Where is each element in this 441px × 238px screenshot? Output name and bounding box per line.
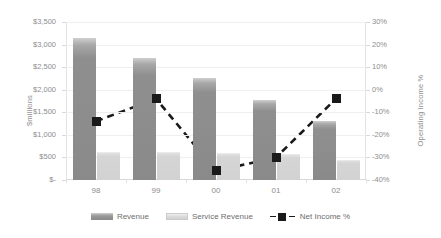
x-axis-label: 99 (126, 186, 186, 195)
y-axis-left-tick (62, 22, 66, 23)
y-axis-right-tick (366, 90, 370, 91)
net-income-marker (92, 117, 101, 126)
y-axis-right-label: 10% (372, 62, 412, 71)
combo-chart: $millions Operating Income % Revenue Ser… (0, 0, 441, 238)
y-axis-right-tick (366, 112, 370, 113)
bar-service-revenue (337, 160, 360, 180)
net-income-line-swatch (270, 212, 296, 221)
y-axis-right-label: -30% (372, 152, 412, 161)
plot-area (66, 22, 366, 180)
y-axis-left-tick (62, 112, 66, 113)
gridline (66, 45, 366, 46)
legend-item-service-revenue: Service Revenue (166, 212, 253, 221)
gridline (66, 90, 366, 91)
legend-label-revenue: Revenue (117, 212, 149, 221)
bar-service-revenue (97, 152, 120, 180)
chart-legend: Revenue Service Revenue Net Income % (0, 205, 441, 227)
y-axis-left-label: $2,500 (10, 62, 56, 71)
x-axis-label: 98 (66, 186, 126, 195)
y-axis-right-label: -20% (372, 130, 412, 139)
net-income-marker (212, 166, 221, 175)
y-axis-left-label: $3,500 (10, 17, 56, 26)
service-revenue-swatch (166, 213, 188, 220)
net-income-marker (332, 94, 341, 103)
y-axis-left-tick (62, 135, 66, 136)
y-axis-left-label: $3,000 (10, 40, 56, 49)
y-axis-left-tick (62, 90, 66, 91)
net-income-marker (272, 153, 281, 162)
x-axis-label: 00 (186, 186, 246, 195)
net-income-marker (152, 94, 161, 103)
gridline (66, 67, 366, 68)
x-axis-tick (306, 179, 307, 183)
gridline (66, 22, 366, 23)
y-axis-left-label: $- (10, 175, 56, 184)
x-axis-tick (246, 179, 247, 183)
y-axis-left-label: $2,000 (10, 85, 56, 94)
legend-item-net-income: Net Income % (270, 212, 350, 221)
y-axis-left-label: $1,000 (10, 130, 56, 139)
bar-service-revenue (157, 152, 180, 180)
y-axis-right-label: 30% (372, 17, 412, 26)
x-axis-tick (66, 179, 67, 183)
x-axis-label: 02 (306, 186, 366, 195)
x-axis-tick (366, 179, 367, 183)
y-axis-left-label: $500 (10, 152, 56, 161)
revenue-swatch (91, 213, 113, 220)
y-axis-right-label: 0% (372, 85, 412, 94)
y-axis-right-label: 20% (372, 40, 412, 49)
y-axis-right-tick (366, 67, 370, 68)
y-axis-right-title: Operating Income % (416, 73, 425, 149)
y-axis-left-tick (62, 157, 66, 158)
bar-revenue (73, 38, 96, 180)
gridline (66, 112, 366, 113)
legend-label-net-income: Net Income % (300, 212, 350, 221)
x-axis-tick (126, 179, 127, 183)
x-axis-tick (186, 179, 187, 183)
y-axis-right-tick (366, 157, 370, 158)
y-axis-left-tick (62, 45, 66, 46)
y-axis-right-label: -10% (372, 107, 412, 116)
y-axis-left-tick (62, 67, 66, 68)
legend-item-revenue: Revenue (91, 212, 149, 221)
bar-revenue (133, 58, 156, 180)
bar-revenue (313, 121, 336, 180)
y-axis-right-tick (366, 45, 370, 46)
bar-revenue (253, 100, 276, 180)
legend-label-service-revenue: Service Revenue (192, 212, 253, 221)
y-axis-left-label: $1,500 (10, 107, 56, 116)
y-axis-right-label: -40% (372, 175, 412, 184)
x-axis-label: 01 (246, 186, 306, 195)
bar-revenue (193, 78, 216, 180)
y-axis-right-tick (366, 22, 370, 23)
y-axis-right-tick (366, 135, 370, 136)
